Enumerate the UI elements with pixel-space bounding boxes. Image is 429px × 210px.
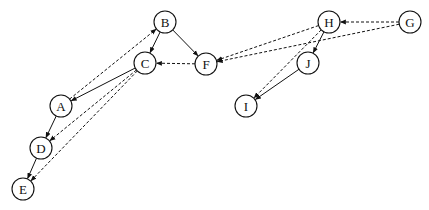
- node-label: F: [202, 57, 209, 72]
- edge-c-to-a: [71, 68, 135, 101]
- edge-b-to-f: [173, 30, 198, 56]
- graph-diagram: ABCDEFGHIJ: [0, 0, 429, 210]
- node-label: H: [324, 15, 333, 30]
- node-label: D: [36, 141, 45, 156]
- node-b: B: [154, 11, 176, 33]
- node-label: A: [56, 99, 66, 114]
- node-label: J: [305, 56, 310, 71]
- edge-a-to-d: [46, 116, 56, 138]
- edges-layer: [28, 22, 400, 181]
- edge-h-to-j: [313, 32, 324, 53]
- node-label: E: [19, 182, 27, 197]
- edge-c-to-e: [31, 71, 137, 181]
- node-f: F: [195, 53, 217, 75]
- node-label: G: [405, 15, 414, 30]
- node-i: I: [235, 95, 257, 117]
- node-a: A: [50, 95, 72, 117]
- edge-b-to-c: [150, 32, 160, 53]
- edge-d-to-e: [28, 158, 37, 178]
- nodes-layer: ABCDEFGHIJ: [12, 11, 421, 200]
- node-g: G: [399, 11, 421, 33]
- node-label: B: [161, 15, 170, 30]
- node-c: C: [134, 52, 156, 74]
- node-h: H: [318, 11, 340, 33]
- node-d: D: [30, 137, 52, 159]
- node-e: E: [12, 178, 34, 200]
- node-label: I: [244, 99, 248, 114]
- node-label: C: [141, 56, 150, 71]
- edge-f-to-c: [156, 63, 195, 64]
- node-j: J: [297, 52, 319, 74]
